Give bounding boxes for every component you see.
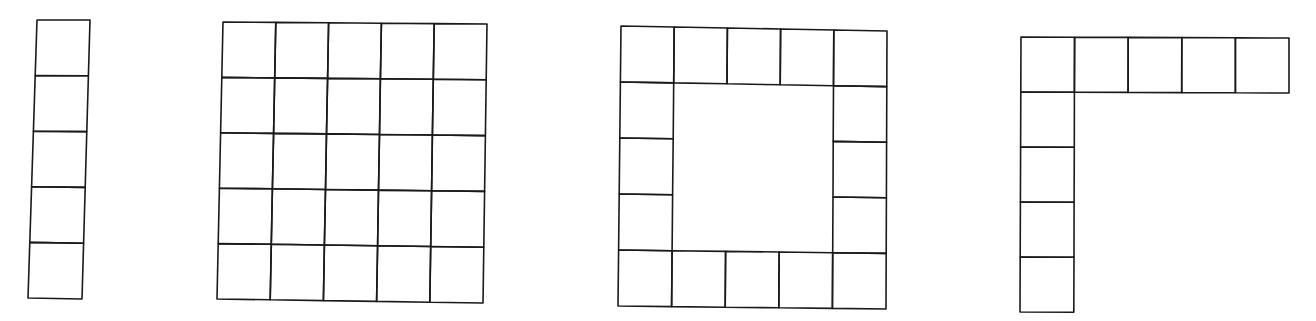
grid-cell (217, 244, 271, 300)
grid-cell (1128, 37, 1182, 92)
grid-cell (1074, 37, 1128, 92)
grid-cell (674, 27, 728, 84)
grid-cell (432, 135, 486, 191)
grid-cell (620, 82, 674, 139)
figure-ring (618, 26, 887, 309)
grid-cell (379, 135, 433, 191)
grid-cell (271, 189, 325, 245)
grid-cell (324, 190, 378, 246)
grid-cell (725, 251, 779, 307)
grid-cell (833, 141, 887, 197)
grid-cell (834, 30, 888, 87)
grid-cell (33, 76, 88, 132)
grid-cell (832, 253, 886, 309)
grid-cell (833, 86, 887, 143)
grid-cell (323, 245, 377, 301)
grid-cell (433, 24, 487, 80)
grid-cell (432, 79, 486, 135)
grid-cell (270, 244, 324, 300)
grid-cell (272, 133, 326, 189)
diagram-canvas (0, 0, 1316, 321)
grid-cell (1020, 257, 1074, 312)
grid-cell (620, 26, 674, 83)
grid-cell (1182, 38, 1236, 93)
grid-cell (328, 23, 382, 79)
grid-cell (222, 22, 276, 78)
grid-cell (32, 131, 87, 187)
grid-cell (1021, 37, 1075, 92)
grid-cell (219, 133, 273, 189)
grid-cell (327, 78, 381, 134)
grid-cell (431, 191, 485, 247)
figure-column (28, 20, 90, 299)
grid-cell (672, 251, 726, 308)
grid-cell (430, 247, 484, 304)
grid-cell (727, 28, 781, 85)
grid-cell (1235, 38, 1289, 93)
grid-cell (1020, 147, 1074, 202)
figure-l-shape (1020, 37, 1289, 312)
grid-cell (1021, 92, 1075, 147)
grid-cell (380, 79, 434, 135)
diagram-svg (0, 0, 1316, 321)
grid-cell (619, 194, 673, 251)
grid-cell (274, 78, 328, 134)
grid-cell (1020, 202, 1074, 257)
grid-cell (28, 242, 84, 299)
figure-full-grid (217, 22, 487, 303)
grid-cell (377, 246, 431, 302)
grid-cell (326, 134, 380, 190)
grid-cell (378, 190, 432, 246)
grid-cell (275, 22, 329, 78)
grid-cell (618, 250, 672, 307)
grid-cell (380, 23, 434, 79)
grid-cell (218, 188, 272, 244)
grid-cell (30, 187, 85, 243)
grid-cell (779, 252, 833, 308)
grid-cell (619, 138, 673, 195)
grid-cell (35, 20, 90, 76)
grid-cell (833, 197, 887, 253)
grid-cell (780, 29, 834, 86)
grid-cell (221, 77, 275, 133)
